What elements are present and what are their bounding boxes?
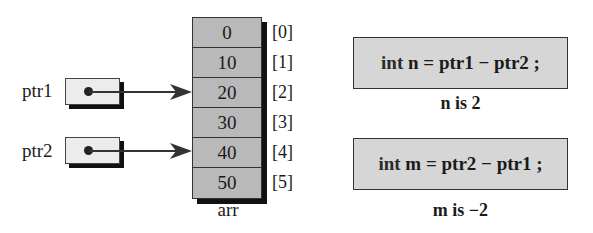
code-keyword: int (378, 153, 400, 174)
array-cell-5: 50 (193, 168, 261, 198)
array-index-4: [4] (272, 137, 293, 167)
pointer-label-ptr1: ptr1 (22, 80, 53, 102)
arrowhead-icon (170, 143, 192, 159)
array-name-label: arr (203, 199, 253, 221)
result-n: n is 2 (353, 93, 568, 114)
array-cell-4: 40 (193, 138, 261, 168)
array-index-1: [1] (272, 47, 293, 77)
array-index-2: [2] (272, 77, 293, 107)
arrowhead-icon (170, 84, 192, 100)
array-cell-1: 10 (193, 48, 261, 78)
result-m: m is −2 (353, 200, 568, 221)
array-cells: 0 10 20 30 40 50 (192, 17, 262, 199)
pointer-arrow-line (89, 91, 179, 93)
code-statement-m: int m = ptr2 − ptr1 ; (353, 138, 568, 190)
array-index-3: [3] (272, 107, 293, 137)
array-cell-3: 30 (193, 108, 261, 138)
code-expression: m = ptr2 − ptr1 ; (405, 153, 542, 174)
array-arr: 0 10 20 30 40 50 (192, 17, 262, 199)
pointer-arrow-line (89, 150, 179, 152)
array-index-5: [5] (272, 167, 293, 197)
array-cell-2: 20 (193, 78, 261, 108)
pointer-label-ptr2: ptr2 (22, 140, 53, 162)
code-statement-n: int n = ptr1 − ptr2 ; (353, 37, 568, 89)
array-cell-0: 0 (193, 18, 261, 48)
code-keyword: int (381, 52, 403, 73)
array-index-0: [0] (272, 17, 293, 47)
code-expression: n = ptr1 − ptr2 ; (408, 52, 540, 73)
